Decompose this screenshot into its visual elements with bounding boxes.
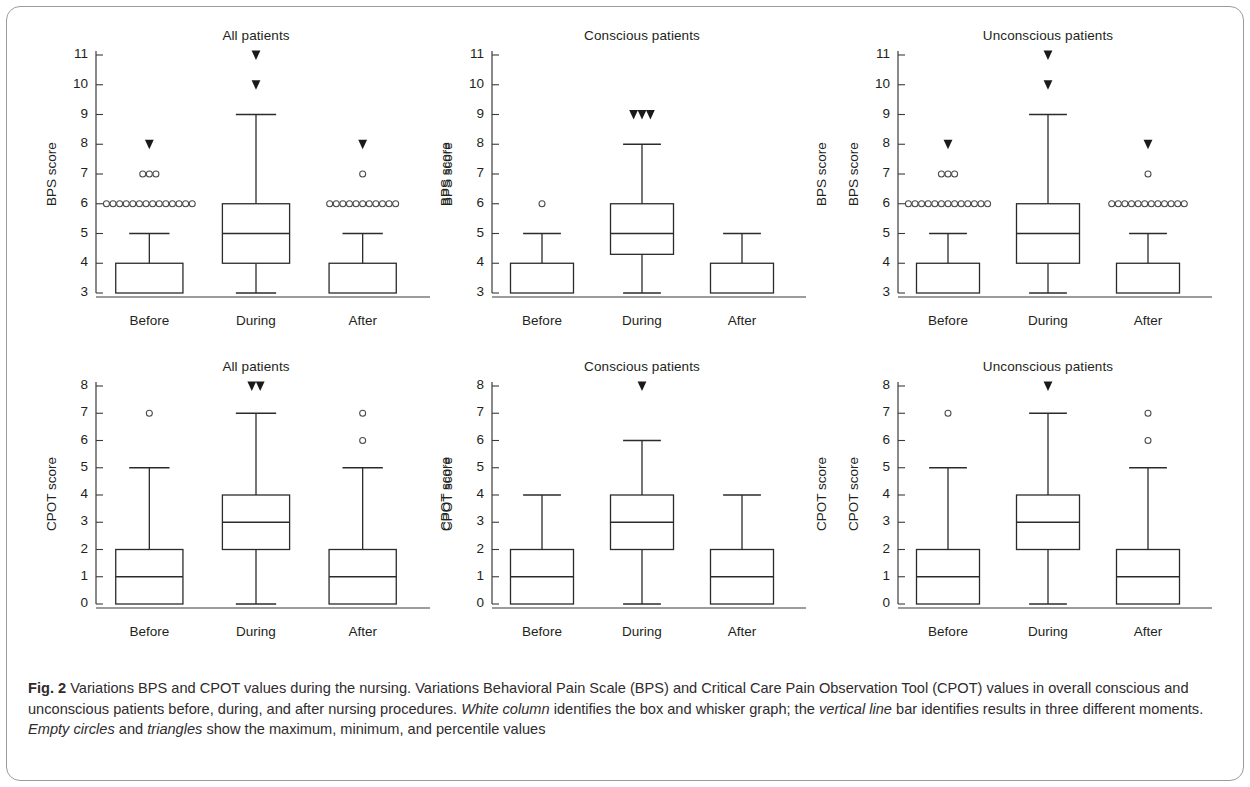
caption-segment: identifies the box and whisker graph; th… [550,701,819,717]
caption-segment: bar identifies results in three differen… [892,701,1203,717]
caption-segment: vertical line [819,701,892,717]
caption-segment: White column [461,701,549,717]
plot-area [0,0,1250,672]
caption-segment: Fig. 2 [28,680,70,696]
caption-segment: show the maximum, minimum, and percentil… [202,721,545,737]
figure-panels: All patientsBPS scoreBPS score3456789101… [0,0,1250,672]
caption-segment: triangles [147,721,202,737]
panel-cpot-unconscious: Unconscious patientsCPOT score012345678B… [0,0,1250,672]
caption-segment: Empty circles [28,721,115,737]
caption-segment: and [115,721,147,737]
figure-caption: Fig. 2 Variations BPS and CPOT values du… [28,678,1224,740]
